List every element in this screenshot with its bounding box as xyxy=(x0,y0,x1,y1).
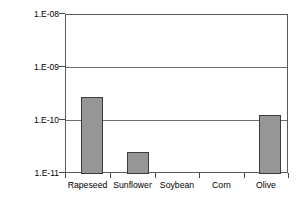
chart-figure: σ [S/m] 1.E-08 1.E-09 1.E-10 1.E-11 Rape… xyxy=(0,0,307,205)
bar-sunflower xyxy=(127,152,149,174)
y-axis-tick-label-1e-10: 1.E-10 xyxy=(0,115,65,125)
x-axis-tick-0 xyxy=(65,173,66,178)
x-axis-tick-1 xyxy=(110,173,111,178)
x-axis-tick-5 xyxy=(288,173,289,178)
x-axis-label-soybean: Soybean xyxy=(155,180,199,190)
bar-olive xyxy=(259,115,281,174)
bar-rapeseed xyxy=(81,97,103,174)
x-axis-label-olive: Olive xyxy=(244,180,288,190)
y-axis-tick-label-1e-11: 1.E-11 xyxy=(0,168,65,178)
y-axis-tick-label-1e-09: 1.E-09 xyxy=(0,62,65,72)
x-axis-label-rapeseed: Rapeseed xyxy=(65,180,110,190)
x-axis-tick-3 xyxy=(199,173,200,178)
x-axis-tick-2 xyxy=(155,173,156,178)
x-axis-label-sunflower: Sunflower xyxy=(110,180,155,190)
x-axis-tick-4 xyxy=(244,173,245,178)
gridline-1e-09 xyxy=(66,67,287,68)
plot-area xyxy=(65,14,288,173)
x-axis-label-corn: Corn xyxy=(199,180,244,190)
y-axis-tick-label-1e-08: 1.E-08 xyxy=(0,9,65,19)
